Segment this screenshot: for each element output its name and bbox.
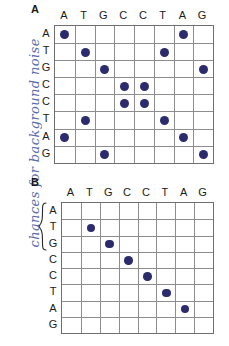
matrix-cell-empty[interactable] <box>55 95 75 111</box>
matrix-cell-empty[interactable] <box>62 269 81 284</box>
matrix-cell-empty[interactable] <box>95 78 115 94</box>
matrix-cell-empty[interactable] <box>194 302 213 317</box>
matrix-cell-empty[interactable] <box>114 44 134 60</box>
matrix-cell-empty[interactable] <box>194 203 213 219</box>
matrix-cell-empty[interactable] <box>81 318 100 333</box>
matrix-cell-empty[interactable] <box>174 44 194 60</box>
matrix-cell-empty[interactable] <box>194 285 213 300</box>
matrix-cell-empty[interactable] <box>95 95 115 111</box>
matrix-cell-empty[interactable] <box>62 302 81 317</box>
matrix-cell-empty[interactable] <box>81 253 100 268</box>
matrix-cell-match[interactable] <box>95 147 115 163</box>
matrix-cell-empty[interactable] <box>75 26 95 43</box>
matrix-cell-match[interactable] <box>156 285 175 300</box>
matrix-cell-match[interactable] <box>75 44 95 60</box>
matrix-cell-empty[interactable] <box>114 112 134 128</box>
matrix-cell-empty[interactable] <box>138 237 157 252</box>
matrix-cell-empty[interactable] <box>154 26 174 43</box>
matrix-cell-empty[interactable] <box>100 253 119 268</box>
matrix-cell-empty[interactable] <box>156 302 175 317</box>
matrix-cell-empty[interactable] <box>62 237 81 252</box>
matrix-cell-match[interactable] <box>175 302 194 317</box>
matrix-cell-empty[interactable] <box>75 95 95 111</box>
matrix-cell-empty[interactable] <box>119 318 138 333</box>
matrix-cell-empty[interactable] <box>175 285 194 300</box>
matrix-cell-match[interactable] <box>193 147 213 163</box>
matrix-cell-empty[interactable] <box>138 253 157 268</box>
matrix-cell-match[interactable] <box>134 95 154 111</box>
matrix-cell-empty[interactable] <box>134 61 154 77</box>
matrix-cell-empty[interactable] <box>55 147 75 163</box>
matrix-cell-match[interactable] <box>193 61 213 77</box>
matrix-cell-empty[interactable] <box>81 302 100 317</box>
matrix-cell-empty[interactable] <box>119 269 138 284</box>
matrix-cell-empty[interactable] <box>62 253 81 268</box>
matrix-cell-empty[interactable] <box>55 78 75 94</box>
matrix-cell-empty[interactable] <box>95 112 115 128</box>
matrix-cell-empty[interactable] <box>138 220 157 235</box>
matrix-cell-empty[interactable] <box>156 269 175 284</box>
matrix-cell-empty[interactable] <box>55 112 75 128</box>
matrix-cell-match[interactable] <box>55 26 75 43</box>
matrix-cell-empty[interactable] <box>81 237 100 252</box>
matrix-cell-empty[interactable] <box>95 44 115 60</box>
matrix-cell-empty[interactable] <box>119 203 138 219</box>
matrix-cell-empty[interactable] <box>194 237 213 252</box>
matrix-cell-empty[interactable] <box>134 44 154 60</box>
matrix-cell-empty[interactable] <box>174 95 194 111</box>
matrix-cell-empty[interactable] <box>100 220 119 235</box>
dot-grid-b[interactable] <box>61 202 214 334</box>
matrix-cell-empty[interactable] <box>138 302 157 317</box>
matrix-cell-match[interactable] <box>81 220 100 235</box>
matrix-cell-empty[interactable] <box>193 78 213 94</box>
dot-grid-a[interactable] <box>54 25 214 164</box>
matrix-cell-empty[interactable] <box>174 61 194 77</box>
matrix-cell-match[interactable] <box>174 130 194 146</box>
matrix-cell-empty[interactable] <box>81 285 100 300</box>
matrix-cell-empty[interactable] <box>156 220 175 235</box>
matrix-cell-empty[interactable] <box>119 237 138 252</box>
matrix-cell-empty[interactable] <box>194 220 213 235</box>
matrix-cell-empty[interactable] <box>95 130 115 146</box>
matrix-cell-empty[interactable] <box>194 318 213 333</box>
matrix-cell-match[interactable] <box>174 26 194 43</box>
matrix-cell-empty[interactable] <box>193 130 213 146</box>
matrix-cell-empty[interactable] <box>174 147 194 163</box>
matrix-cell-empty[interactable] <box>75 147 95 163</box>
matrix-cell-empty[interactable] <box>119 302 138 317</box>
matrix-cell-empty[interactable] <box>175 220 194 235</box>
matrix-cell-match[interactable] <box>114 78 134 94</box>
matrix-cell-empty[interactable] <box>75 61 95 77</box>
matrix-cell-empty[interactable] <box>194 269 213 284</box>
matrix-cell-empty[interactable] <box>55 44 75 60</box>
matrix-cell-empty[interactable] <box>154 95 174 111</box>
matrix-cell-empty[interactable] <box>154 130 174 146</box>
matrix-cell-empty[interactable] <box>193 112 213 128</box>
matrix-cell-empty[interactable] <box>100 285 119 300</box>
matrix-cell-empty[interactable] <box>175 269 194 284</box>
matrix-cell-empty[interactable] <box>114 130 134 146</box>
matrix-cell-empty[interactable] <box>62 318 81 333</box>
matrix-cell-empty[interactable] <box>193 44 213 60</box>
matrix-cell-empty[interactable] <box>100 269 119 284</box>
matrix-cell-empty[interactable] <box>156 253 175 268</box>
matrix-cell-empty[interactable] <box>100 302 119 317</box>
matrix-cell-empty[interactable] <box>75 130 95 146</box>
matrix-cell-empty[interactable] <box>174 112 194 128</box>
matrix-cell-empty[interactable] <box>114 147 134 163</box>
matrix-cell-empty[interactable] <box>119 285 138 300</box>
matrix-cell-empty[interactable] <box>119 220 138 235</box>
matrix-cell-empty[interactable] <box>81 203 100 219</box>
matrix-cell-empty[interactable] <box>193 95 213 111</box>
matrix-cell-empty[interactable] <box>134 26 154 43</box>
matrix-cell-empty[interactable] <box>100 203 119 219</box>
matrix-cell-empty[interactable] <box>175 318 194 333</box>
matrix-cell-match[interactable] <box>114 95 134 111</box>
matrix-cell-empty[interactable] <box>154 61 174 77</box>
matrix-cell-empty[interactable] <box>175 237 194 252</box>
matrix-cell-empty[interactable] <box>100 318 119 333</box>
matrix-cell-empty[interactable] <box>138 203 157 219</box>
matrix-cell-match[interactable] <box>154 44 174 60</box>
matrix-cell-empty[interactable] <box>134 112 154 128</box>
matrix-cell-match[interactable] <box>100 237 119 252</box>
